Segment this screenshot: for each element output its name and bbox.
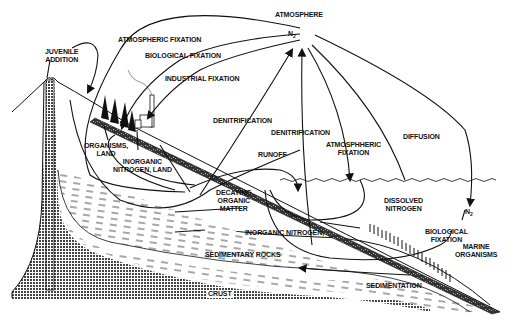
juvenile-addition-line2: ADDITION xyxy=(45,56,78,64)
inorganic-nitrogen-land-label: INORGANICNITROGEN, LAND xyxy=(113,158,172,174)
juvenile-addition-label: JUVENILEADDITION xyxy=(45,48,78,64)
organisms-land-line2: LAND xyxy=(84,150,128,158)
industrial-fixation-label: INDUSTRIAL FIXATION xyxy=(165,75,239,83)
decaying-organic-matter-label: DECAYINGORGANICMATTER xyxy=(216,189,252,213)
dissolved-nitrogen-line2: NITROGEN xyxy=(384,205,423,213)
biological-fixation-land-label: BIOLOGICAL FIXATION xyxy=(145,52,221,60)
sedimentary-rocks-label: SEDIMENTARY ROCKS xyxy=(205,251,281,259)
biological-fixation-sea-label: BIOLOGICALFIXATION xyxy=(425,228,468,244)
sedimentation-label: SEDIMENTATION xyxy=(366,282,422,290)
atmospheric-fixation-sea-line2: FIXATION xyxy=(326,149,381,157)
atmosphere-label: ATMOSPHERE xyxy=(275,11,323,19)
runoff-label: RUNOFF xyxy=(258,151,287,159)
marine-organisms-line2: ORGANISMS xyxy=(455,251,497,259)
organisms-land-label: ORGANISMS,LAND xyxy=(84,142,128,158)
atmospheric-fixation-sea-line1: ATMOSPHHERIC xyxy=(326,141,381,149)
denitrification-sea-label: DENITRIFICATION xyxy=(271,129,330,137)
inorganic-nitrogen-sea-label: INORGANIC NITROGEN, xyxy=(245,229,324,237)
n2-sea-label: N2 xyxy=(465,208,473,218)
marine-organisms-line1: MARINE xyxy=(455,243,497,251)
sea-surface xyxy=(280,179,496,182)
n2-atmosphere-label: N2 xyxy=(288,30,296,40)
juvenile-conduit xyxy=(46,80,54,290)
decaying-line2: ORGANIC xyxy=(216,197,252,205)
diffusion-label: DIFFUSION xyxy=(403,133,440,141)
dissolved-nitrogen-line1: DISSOLVED xyxy=(384,197,423,205)
nitrogen-cycle-diagram: ATMOSPHERE N2 JUVENILEADDITION ATMOSPHER… xyxy=(0,0,515,320)
atmospheric-fixation-land-label: ATMOSPHERIC FIXATION xyxy=(118,36,201,44)
dissolved-nitrogen-label: DISSOLVEDNITROGEN xyxy=(384,197,423,213)
decaying-line3: MATTER xyxy=(216,205,252,213)
denitrification-land-label: DENITRIFICATION xyxy=(213,117,272,125)
n2-subscript: 2 xyxy=(293,33,296,39)
decaying-line1: DECAYING xyxy=(216,189,252,197)
organisms-land-line1: ORGANISMS, xyxy=(84,142,128,150)
crust-label: CRUST xyxy=(206,290,234,298)
atmospheric-fixation-sea-label: ATMOSPHHERICFIXATION xyxy=(326,141,381,157)
inorganic-nitrogen-land-line1: INORGANIC xyxy=(113,158,172,166)
biological-fixation-sea-line1: BIOLOGICAL xyxy=(425,228,468,236)
marine-organisms-label: MARINEORGANISMS xyxy=(455,243,497,259)
juvenile-addition-line1: JUVENILE xyxy=(45,48,78,56)
inorganic-nitrogen-land-line2: NITROGEN, LAND xyxy=(113,166,172,174)
n2-sea-subscript: 2 xyxy=(470,211,473,217)
